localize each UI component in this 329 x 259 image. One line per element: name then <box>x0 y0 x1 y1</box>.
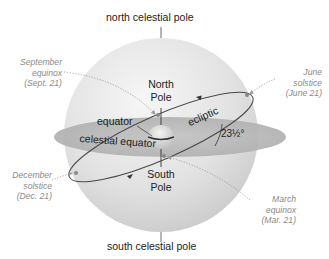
north-pole-label: North Pole <box>146 78 176 103</box>
south-pole-label: South Pole <box>146 168 176 193</box>
celestial-sphere-diagram: north celestial pole south celestial pol… <box>0 0 329 259</box>
north-celestial-pole-label: north celestial pole <box>106 12 194 24</box>
june-solstice-point <box>245 93 249 97</box>
december-solstice-point <box>74 171 78 175</box>
tilt-angle-label: 23½° <box>221 128 244 139</box>
south-celestial-pole-label: south celestial pole <box>107 241 196 253</box>
equator-label: equator <box>97 116 133 128</box>
march-equinox-label: March equinox (Mar. 21) <box>246 194 296 226</box>
september-equinox-label: September equinox (Sept. 21) <box>4 57 62 89</box>
june-solstice-label: June solstice (June 21) <box>270 67 322 99</box>
december-solstice-label: December solstice (Dec. 21) <box>2 170 52 202</box>
march-equinox-point <box>162 154 166 158</box>
september-equinox-point <box>156 113 160 117</box>
